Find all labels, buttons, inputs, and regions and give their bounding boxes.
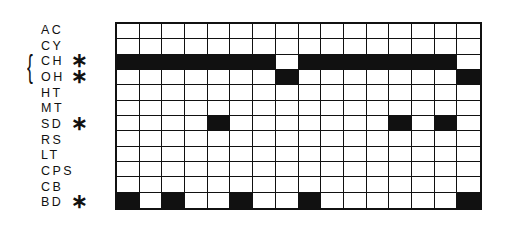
grid-cell xyxy=(412,70,435,85)
grid-cell xyxy=(185,55,208,70)
row-label-ht: HT xyxy=(0,85,115,101)
grid-cell xyxy=(208,85,231,100)
grid-cell xyxy=(435,131,458,146)
grid-cell xyxy=(253,147,276,162)
grid-cell xyxy=(208,177,231,192)
grid-cell xyxy=(140,39,163,54)
grid-cell xyxy=(185,101,208,116)
grid-cell xyxy=(230,55,253,70)
row-label-cb: CB xyxy=(0,179,115,195)
grid-cell xyxy=(230,147,253,162)
grid-cell xyxy=(185,24,208,39)
grid-cell xyxy=(162,131,185,146)
grid-cell xyxy=(344,39,367,54)
grid-cell xyxy=(389,85,412,100)
grid-cell xyxy=(344,101,367,116)
grid-cell xyxy=(389,101,412,116)
grid-cell xyxy=(276,193,299,208)
grid-cell xyxy=(299,85,322,100)
grid-cell xyxy=(140,24,163,39)
row-label-oh: OH∗ xyxy=(0,69,115,85)
grid-cell xyxy=(230,116,253,131)
grid-cell xyxy=(321,131,344,146)
grid-cell xyxy=(162,116,185,131)
grid-cell xyxy=(162,147,185,162)
grid-cell xyxy=(208,162,231,177)
grid-cell xyxy=(230,39,253,54)
row-label-rs: RS xyxy=(0,132,115,148)
grid-cell xyxy=(299,116,322,131)
grid-cell xyxy=(208,147,231,162)
grid-cell xyxy=(140,193,163,208)
grid-cell xyxy=(344,55,367,70)
grid-cell xyxy=(117,131,140,146)
grid-cell xyxy=(344,70,367,85)
grid-cell xyxy=(389,116,412,131)
row-label-cy: CY xyxy=(0,38,115,54)
grid-cell xyxy=(230,70,253,85)
grid-cell xyxy=(457,70,480,85)
grid-cell xyxy=(367,147,390,162)
grid-cell xyxy=(367,70,390,85)
grid-cell xyxy=(367,55,390,70)
grid-cell xyxy=(344,131,367,146)
grid-cell xyxy=(185,193,208,208)
grid-cell xyxy=(435,162,458,177)
grid-cell xyxy=(412,177,435,192)
row-label-text: SD xyxy=(41,117,63,131)
row-label-text: BD xyxy=(41,195,63,209)
grid-cell xyxy=(321,116,344,131)
grid-cell xyxy=(185,39,208,54)
grid-cell xyxy=(162,177,185,192)
grid-cell xyxy=(457,24,480,39)
grid-cell xyxy=(253,162,276,177)
grid-cell xyxy=(321,85,344,100)
grid-cell xyxy=(253,24,276,39)
grid-cell xyxy=(321,101,344,116)
grid-cell xyxy=(299,70,322,85)
grid-cell xyxy=(253,193,276,208)
asterisk-icon: ∗ xyxy=(71,191,88,211)
grid-cell xyxy=(230,162,253,177)
row-label-ch: CH∗ xyxy=(0,53,115,69)
grid-cell xyxy=(185,131,208,146)
grid-cell xyxy=(457,101,480,116)
grid-cell xyxy=(389,193,412,208)
grid-cell xyxy=(185,177,208,192)
grid-cell xyxy=(321,70,344,85)
row-label-lt: LT xyxy=(0,147,115,163)
grid-cell xyxy=(457,177,480,192)
grid-cell xyxy=(412,193,435,208)
grid-cell xyxy=(389,70,412,85)
grid-cell xyxy=(162,55,185,70)
grid-cell xyxy=(253,101,276,116)
grid-cell xyxy=(276,24,299,39)
grid-cell xyxy=(253,116,276,131)
grid-cell xyxy=(435,116,458,131)
grid-cell xyxy=(412,162,435,177)
row-label-cps: CPS xyxy=(0,163,115,179)
grid-cell xyxy=(162,39,185,54)
grid-cell xyxy=(299,39,322,54)
grid-cell xyxy=(162,193,185,208)
row-label-text: HT xyxy=(41,86,63,100)
grid-cell xyxy=(412,131,435,146)
grid-cell xyxy=(344,147,367,162)
grid-cell xyxy=(367,177,390,192)
grid-cell xyxy=(185,85,208,100)
grid-cell xyxy=(230,177,253,192)
grid-cell xyxy=(321,162,344,177)
grid-cell xyxy=(208,39,231,54)
grid-cell xyxy=(412,101,435,116)
grid-cell xyxy=(344,177,367,192)
grid-cell xyxy=(117,116,140,131)
grid-cell xyxy=(367,85,390,100)
grid-cell xyxy=(117,147,140,162)
row-label-text: AC xyxy=(41,23,63,37)
grid-cell xyxy=(162,162,185,177)
grid-cell xyxy=(276,101,299,116)
grid-cell xyxy=(117,85,140,100)
grid-cell xyxy=(412,24,435,39)
grid-cell xyxy=(412,147,435,162)
grid-cell xyxy=(253,85,276,100)
